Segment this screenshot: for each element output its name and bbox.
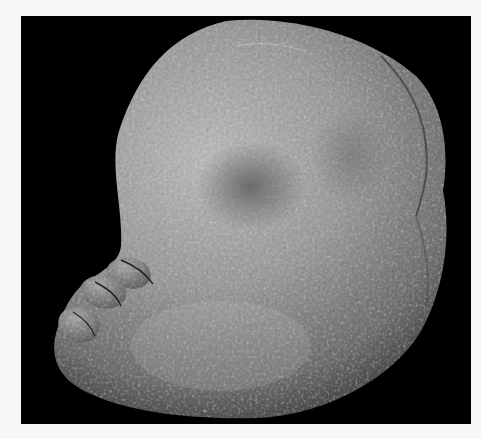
specimen-illustration <box>21 16 471 424</box>
specimen-photo <box>21 16 471 424</box>
